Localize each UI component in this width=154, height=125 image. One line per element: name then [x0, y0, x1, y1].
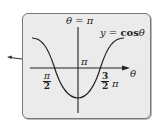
tick-pi-over-2: π 2: [43, 72, 51, 91]
theta-equals-pi-label: θ = π: [66, 16, 93, 26]
figure: θ = π y = cosθ π θ π 2 3 2 π: [0, 0, 154, 125]
theta-axis-label: θ: [130, 69, 136, 79]
tick-3-over-2-pi: π: [112, 79, 119, 89]
tick-3-over-2: 3 2: [101, 72, 109, 91]
theta-axis: [30, 66, 130, 71]
pi-label: π: [81, 57, 88, 67]
curve-label: y = cosθ: [100, 28, 145, 38]
pointer-arrow-icon: [7, 56, 22, 60]
